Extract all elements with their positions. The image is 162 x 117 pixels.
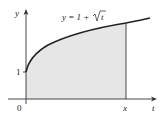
x-tick-label: x [122, 103, 127, 113]
equation-prefix: y = 1 + [61, 12, 89, 22]
sqrt-radical-icon [93, 11, 106, 21]
equation-label: y = 1 + [61, 12, 89, 22]
origin-label: 0 [17, 103, 22, 113]
equation-sqrt-arg: t [101, 12, 104, 22]
y-tick-label-1: 1 [16, 67, 21, 77]
chart-svg: y t 0 1 x y = 1 + t [0, 0, 162, 117]
t-axis-label: t [152, 103, 155, 113]
area-under-curve-figure: y t 0 1 x y = 1 + t [0, 0, 162, 117]
y-axis-label: y [14, 8, 19, 18]
